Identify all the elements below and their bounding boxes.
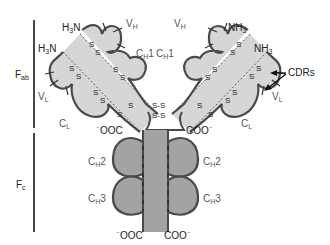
right-cl-label: CL <box>241 118 252 130</box>
right-heavy-n-terminus: NH3 <box>228 22 246 34</box>
right-fab-arm <box>172 23 285 132</box>
left-c-terminus: ⁻OOC <box>96 125 123 136</box>
disulfide-label: S <box>232 88 237 97</box>
cdrs-label: CDRs <box>288 67 315 78</box>
disulfide-label: S <box>100 96 105 105</box>
left-light-n-terminus: H3N <box>38 43 56 55</box>
left-vh-label: VH <box>126 18 138 30</box>
fab-label: Fab <box>15 69 29 81</box>
disulfide-label: S <box>236 40 241 49</box>
right-vh-label: VH <box>174 18 186 30</box>
disulfide-label: S <box>89 40 94 49</box>
fc-ch2-right-lobe <box>168 138 198 176</box>
antibody-diagram: Fab Fc S S S S S S S S S S H3N H3N VH CH… <box>0 0 330 245</box>
ch2-right-label: CH2 <box>203 156 221 168</box>
disulfide-label: S <box>208 110 213 119</box>
disulfide-label: S <box>69 64 74 73</box>
fc-region <box>113 130 198 232</box>
disulfide-label: S <box>128 101 133 110</box>
disulfide-label: S <box>197 101 202 110</box>
disulfide-label: S <box>76 72 81 81</box>
fc-ch3-right-lobe <box>168 177 198 215</box>
disulfide-label: S <box>120 73 125 82</box>
disulfide-label: S <box>230 48 235 57</box>
ch3-right-label: CH3 <box>203 193 221 205</box>
ch2-left-label: CH2 <box>88 156 106 168</box>
fc-ch3-left-lobe <box>113 177 143 215</box>
disulfide-label: S <box>212 65 217 74</box>
disulfide-label: S <box>225 96 230 105</box>
left-vl-label: VL <box>38 91 49 103</box>
right-ch1-label: CH1 <box>156 48 174 60</box>
fc-right-c-terminus: COO⁻ <box>164 230 191 241</box>
disulfide-label: S <box>113 65 118 74</box>
disulfide-label: S <box>256 64 261 73</box>
right-vl-label: VL <box>272 91 283 103</box>
disulfide-label: S <box>95 48 100 57</box>
fc-label: Fc <box>16 179 26 191</box>
right-c-terminus: COO⁻ <box>186 125 213 136</box>
disulfide-label: S <box>117 110 122 119</box>
ch3-left-label: CH3 <box>88 193 106 205</box>
fc-ch2-left-lobe <box>113 138 143 176</box>
disulfide-label: S <box>93 88 98 97</box>
disulfide-label: S <box>249 72 254 81</box>
left-heavy-n-terminus: H3N <box>62 22 80 34</box>
hinge-disulfide-lower: S-S <box>152 111 165 120</box>
left-ch1-label: CH1 <box>136 48 154 60</box>
fc-left-c-terminus: ⁻OOC <box>116 230 143 241</box>
disulfide-label: S <box>205 73 210 82</box>
left-fab-arm: S S S S S S S S S S <box>45 23 158 132</box>
fc-stem <box>143 130 168 232</box>
hinge-disulfide-upper: S-S <box>152 101 165 110</box>
right-light-n-terminus: NH3 <box>254 43 272 55</box>
left-cl-label: CL <box>59 118 70 130</box>
